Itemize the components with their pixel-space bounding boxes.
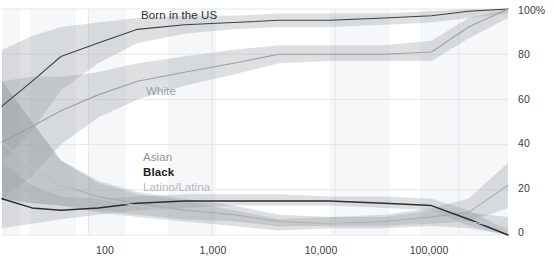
y-tick-100: 100%: [518, 4, 545, 16]
series-label-born-in-the-us: Born in the US: [141, 9, 217, 21]
y-tick-60: 60: [518, 93, 530, 105]
series-label-black: Black: [143, 166, 174, 178]
chart-container: 100% 80 60 40 20 0 100 1,000 10,000 100,…: [0, 0, 554, 264]
line-chart-plot: [0, 0, 554, 264]
y-tick-80: 80: [518, 48, 530, 60]
x-tick-100: 100: [96, 244, 114, 256]
series-label-white: White: [146, 85, 176, 97]
y-tick-40: 40: [518, 137, 530, 149]
x-tick-100000: 100,000: [410, 244, 449, 256]
x-tick-10000: 10,000: [305, 244, 338, 256]
y-tick-0: 0: [518, 226, 524, 238]
x-tick-1000: 1,000: [200, 244, 227, 256]
series-label-latino-latina: Latino/Latina: [143, 181, 210, 193]
y-tick-20: 20: [518, 182, 530, 194]
series-label-asian: Asian: [143, 151, 172, 163]
